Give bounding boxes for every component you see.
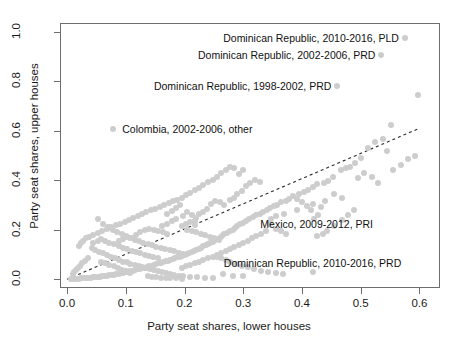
data-point	[310, 201, 316, 207]
annotation-label: Dominican Republic, 1998-2002, PRD	[154, 80, 331, 92]
x-tick-label: 0.3	[223, 297, 263, 309]
x-tick-mark	[243, 288, 244, 294]
y-tick-label: 1.0	[10, 1, 22, 61]
annotation-label: Colombia, 2002-2006, other	[122, 123, 252, 135]
data-point	[210, 275, 216, 281]
annotation-label: Dominican Republic, 2010-2016, PLD	[223, 32, 399, 44]
data-point	[318, 204, 324, 210]
x-axis-title: Party seat shares, lower houses	[0, 320, 458, 332]
data-point	[299, 199, 305, 205]
data-point	[412, 153, 418, 159]
data-point	[70, 271, 76, 277]
data-point	[257, 179, 263, 185]
x-tick-mark	[361, 288, 362, 294]
data-point	[227, 197, 233, 203]
data-point	[310, 269, 316, 275]
data-point	[177, 202, 183, 208]
data-point	[320, 231, 326, 237]
data-point	[273, 270, 279, 276]
data-point	[180, 251, 186, 257]
annotation-label: Mexico, 2009-2012, PRI	[260, 218, 373, 230]
data-point	[202, 275, 208, 281]
x-tick-label: 0.6	[399, 297, 439, 309]
data-point	[173, 216, 179, 222]
y-tick-mark	[54, 180, 60, 181]
y-tick-mark	[54, 32, 60, 33]
data-point	[402, 35, 408, 41]
data-point	[365, 145, 371, 151]
data-point	[76, 243, 82, 249]
x-tick-mark	[126, 288, 127, 294]
data-point	[179, 276, 185, 282]
data-point	[304, 203, 310, 209]
data-point	[265, 269, 271, 275]
data-point	[321, 180, 327, 186]
x-tick-label: 0.1	[106, 297, 146, 309]
data-point	[179, 265, 185, 271]
x-tick-mark	[185, 288, 186, 294]
x-tick-label: 0.2	[165, 297, 205, 309]
x-tick-mark	[67, 288, 68, 294]
data-point	[230, 273, 236, 279]
x-tick-mark	[302, 288, 303, 294]
data-point	[339, 195, 345, 201]
data-point	[351, 207, 357, 213]
x-tick-label: 0.5	[341, 297, 381, 309]
y-tick-mark	[54, 279, 60, 280]
scatter-plot-figure: 0.00.10.20.30.40.50.6 0.00.20.40.60.81.0…	[0, 0, 458, 347]
x-tick-mark	[419, 288, 420, 294]
data-point	[314, 233, 320, 239]
data-point	[388, 122, 394, 128]
plot-area	[60, 23, 440, 288]
y-tick-mark	[54, 230, 60, 231]
data-point	[384, 148, 390, 154]
y-tick-mark	[54, 81, 60, 82]
data-point	[216, 237, 222, 243]
data-point	[361, 170, 367, 176]
annotation-label: Dominican Republic, 2010-2016, PRD	[224, 257, 401, 269]
y-axis-title: Party seat shares, upper houses	[28, 26, 40, 266]
y-tick-mark	[54, 131, 60, 132]
annotation-label: Dominican Republic, 2002-2006, PRD	[198, 49, 375, 61]
x-tick-label: 0.0	[47, 297, 87, 309]
data-point	[127, 270, 133, 276]
data-point	[283, 231, 289, 237]
data-point	[405, 156, 411, 162]
data-point	[358, 155, 364, 161]
data-point	[236, 171, 242, 177]
data-point	[95, 230, 101, 236]
data-point	[68, 276, 74, 282]
x-tick-label: 0.4	[282, 297, 322, 309]
